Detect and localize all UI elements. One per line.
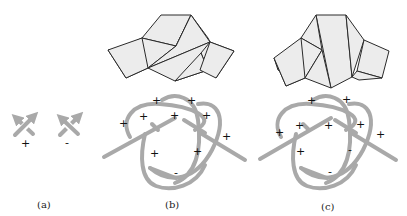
crossing-sign: + xyxy=(202,109,211,122)
tiling-diagram-c xyxy=(274,15,389,88)
crossing-sign: + xyxy=(187,94,196,107)
positive-sign: + xyxy=(21,137,30,150)
panel-label-c: (c) xyxy=(321,201,335,212)
crossing-sign: + xyxy=(307,94,316,107)
crossing-sign: - xyxy=(328,165,332,178)
figure-canvas: + - (a) xyxy=(0,0,407,216)
crossing-sign: + xyxy=(170,109,179,122)
negative-sign: - xyxy=(65,136,69,149)
crossing-sign: + xyxy=(139,110,148,123)
crossing-sign: + xyxy=(150,147,159,160)
panel-b: + + + + + + + + + - (b) xyxy=(104,15,245,210)
panel-label-a: (a) xyxy=(37,199,51,210)
crossing-sign: + xyxy=(119,117,128,130)
crossing-sign: + xyxy=(296,145,305,158)
crossing-sign: + xyxy=(222,130,231,143)
panel-a: + - (a) xyxy=(15,116,79,210)
crossing-sign: - xyxy=(174,166,178,179)
crossing-sign: + xyxy=(295,119,304,132)
crossing-sign: + xyxy=(356,118,365,131)
crossing-sign: + xyxy=(275,126,284,139)
panel-label-b: (b) xyxy=(165,199,179,210)
crossing-sign: - xyxy=(348,143,352,156)
negative-crossing-icon xyxy=(60,116,79,135)
panel-c: + + + + + + + + - - (c) xyxy=(260,15,396,212)
crossing-sign: + xyxy=(152,94,161,107)
crossing-sign: + xyxy=(324,119,333,132)
crossing-sign: + xyxy=(376,128,385,141)
crossing-sign: + xyxy=(342,93,351,106)
positive-crossing-icon xyxy=(15,116,34,135)
crossing-sign: + xyxy=(193,145,202,158)
tiling-diagram-b xyxy=(108,15,234,81)
